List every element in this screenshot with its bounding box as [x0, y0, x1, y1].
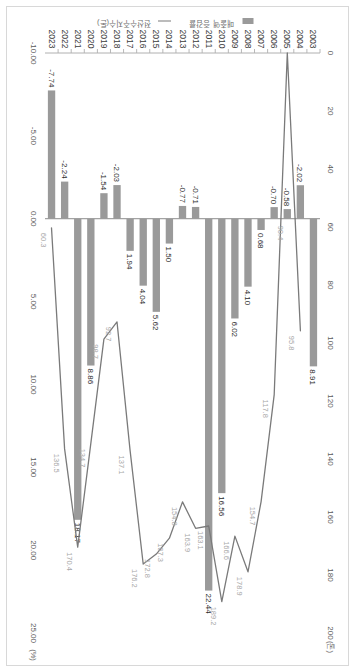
category-tick-label: 2023 — [47, 30, 57, 49]
category-tick-label: 2018 — [112, 30, 122, 49]
bar-2014[interactable] — [166, 219, 173, 244]
chart-svg: 020406080100120140160180200(톤)-10.00-5.0… — [7, 7, 349, 666]
category-tick-label: 2014 — [164, 30, 174, 49]
line-extra-label-2006: 90.4 — [276, 226, 285, 241]
bar-2006[interactable] — [271, 207, 278, 219]
bar-value-label-2008: 4.10 — [243, 290, 252, 306]
line-value-label-2021: 170.4 — [65, 552, 74, 571]
category-tick-label: 2022 — [60, 30, 70, 49]
line-value-label-2015: 172.8 — [143, 559, 152, 578]
bar-value-label-2016: 4.04 — [138, 289, 147, 305]
bar-value-label-2010: 16.56 — [217, 496, 226, 517]
bar-value-label-2005: -0.58 — [282, 188, 291, 207]
bar-value-label-2018: -2.03 — [112, 164, 121, 183]
top-axis-tick-label: 140 — [326, 452, 335, 466]
category-tick-label: 2013 — [178, 30, 188, 49]
top-axis-tick-label: 40 — [326, 165, 335, 174]
bottom-axis-tick-label: 0.00 — [29, 211, 38, 227]
line-value-label-2012: 163.9 — [183, 533, 192, 552]
bar-value-label-2022: -2.24 — [60, 160, 69, 179]
line-value-label-2007: 154.7 — [248, 507, 257, 526]
rotated-chart-wrapper: 020406080100120140160180200(톤)-10.00-5.0… — [7, 7, 349, 666]
bar-2019[interactable] — [100, 193, 107, 219]
line-value-label-2010: 189.2 — [209, 607, 218, 626]
bar-2011[interactable] — [205, 219, 212, 591]
bottom-axis-tick-label: 10.00 — [29, 374, 38, 395]
top-axis-unit-label: (톤) — [326, 641, 335, 653]
bar-2008[interactable] — [244, 219, 251, 287]
category-tick-label: 2012 — [191, 30, 201, 49]
legend-label-0: 매출액 증감률 — [189, 19, 233, 29]
chart-figure-frame: 020406080100120140160180200(톤)-10.00-5.0… — [6, 6, 349, 666]
line-value-label-2018: 92.7 — [104, 327, 113, 342]
bottom-axis-tick-label: 5.00 — [29, 294, 38, 310]
bottom-axis-tick-label: 25.00 — [29, 623, 38, 644]
bar-value-label-2017: 1.94 — [125, 254, 134, 270]
bar-2023[interactable] — [48, 90, 55, 218]
category-tick-label: 2016 — [138, 30, 148, 49]
bar-2017[interactable] — [126, 219, 133, 251]
bar-value-label-2013: -0.77 — [178, 185, 187, 204]
top-axis-tick-label: 200 — [326, 626, 335, 640]
bar-value-label-2007: 0.68 — [256, 233, 265, 249]
line-value-label-2023: 60.3 — [39, 233, 48, 248]
bar-2010[interactable] — [218, 219, 225, 493]
bar-2007[interactable] — [257, 219, 264, 230]
bar-2003[interactable] — [310, 219, 317, 367]
bar-2004[interactable] — [297, 185, 304, 218]
category-tick-label: 2007 — [256, 30, 266, 49]
line-value-label-2022: 136.5 — [52, 454, 61, 473]
line-value-label-2019: 98.7 — [91, 344, 100, 359]
bar-2018[interactable] — [113, 185, 120, 219]
category-tick-label: 2004 — [295, 30, 305, 49]
top-axis-tick-label: 100 — [326, 336, 335, 350]
bar-value-label-2014: 1.50 — [164, 247, 173, 263]
bar-value-label-2023: -7.74 — [47, 69, 56, 88]
bar-value-label-2015: 5.62 — [151, 315, 160, 331]
line-value-label-2014: 167.3 — [156, 543, 165, 562]
top-axis-tick-label: 160 — [326, 510, 335, 524]
category-tick-label: 2011 — [204, 30, 214, 49]
top-axis-tick-label: 80 — [326, 281, 335, 290]
bar-value-label-2009: 6.02 — [230, 321, 239, 337]
line-value-label-2020: 134.7 — [78, 449, 87, 468]
bar-value-label-2020: 8.86 — [86, 369, 95, 385]
category-tick-label: 2006 — [269, 30, 279, 49]
category-tick-label: 2021 — [73, 30, 83, 49]
line-value-label-2016: 176.2 — [130, 569, 139, 588]
bottom-axis-tick-label: -10.00 — [29, 42, 38, 65]
category-tick-label: 2009 — [230, 30, 240, 49]
category-tick-label: 2019 — [99, 30, 109, 49]
category-tick-label: 2010 — [217, 30, 227, 49]
bar-2016[interactable] — [140, 219, 147, 286]
bar-2021[interactable] — [74, 219, 81, 520]
bar-2012[interactable] — [192, 207, 199, 219]
category-tick-label: 2020 — [86, 30, 96, 49]
line-value-label-2011: 163.1 — [196, 531, 205, 550]
category-tick-label: 2015 — [151, 30, 161, 49]
bar-value-label-2012: -0.71 — [191, 186, 200, 205]
bottom-axis-tick-label: 15.00 — [29, 457, 38, 478]
line-value-label-2017: 137.1 — [117, 456, 126, 475]
bar-2015[interactable] — [153, 219, 160, 312]
bar-value-label-2006: -0.70 — [269, 186, 278, 205]
category-tick-label: 2005 — [282, 30, 292, 49]
legend-marker-bar — [243, 18, 254, 24]
bar-value-label-2003: 8.91 — [308, 369, 317, 385]
bottom-axis-tick-label: 20.00 — [29, 540, 38, 561]
category-tick-label: 2017 — [125, 30, 135, 49]
bar-2013[interactable] — [179, 206, 186, 219]
bar-2005[interactable] — [284, 209, 291, 219]
bar-2022[interactable] — [61, 182, 68, 219]
combination-bar-line-chart: 020406080100120140160180200(톤)-10.00-5.0… — [7, 7, 349, 666]
top-axis-tick-label: 20 — [326, 107, 335, 116]
bar-2009[interactable] — [231, 219, 238, 319]
line-value-label-2006: 117.8 — [261, 400, 270, 418]
line-value-label-2013: 154.8 — [170, 507, 179, 526]
bar-value-label-2019: -1.54 — [99, 172, 108, 191]
top-axis-tick-label: 180 — [326, 568, 335, 582]
category-tick-label: 2008 — [243, 30, 253, 49]
top-axis-tick-label: 120 — [326, 394, 335, 408]
line-value-label-2008: 178.9 — [235, 577, 244, 596]
top-axis-tick-label: 0 — [326, 51, 335, 56]
